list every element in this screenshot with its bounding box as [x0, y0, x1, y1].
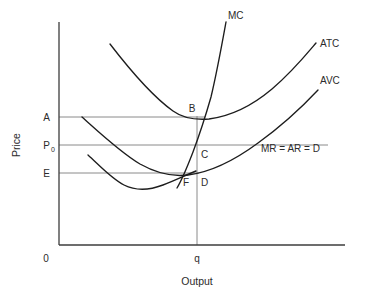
curve-label-avc: AVC: [320, 75, 340, 86]
curve-mc: [177, 22, 226, 188]
curve-label-mc: MC: [228, 10, 244, 21]
cost-curve-figure: MC ATC AVC MR = AR = D A P 0 E B C D F 0…: [0, 0, 366, 302]
revenue-line-label: MR = AR = D: [261, 143, 320, 154]
price-label-A: A: [43, 112, 50, 123]
curve-atc: [110, 43, 316, 119]
point-label-F: F: [183, 177, 189, 188]
point-label-D: D: [201, 177, 208, 188]
origin-label: 0: [43, 253, 49, 264]
curve-label-atc: ATC: [320, 38, 339, 49]
y-axis-title: Price: [10, 133, 22, 157]
x-axis-title: Output: [181, 275, 213, 287]
x-tick-label-q: q: [194, 253, 200, 264]
diagram-canvas: MC ATC AVC MR = AR = D A P 0 E B C D F 0…: [0, 0, 366, 302]
point-label-B: B: [189, 103, 196, 114]
point-label-C: C: [201, 149, 208, 160]
price-label-E: E: [43, 168, 50, 179]
price-label-P0: P: [43, 140, 50, 151]
price-label-P0-subscript: 0: [51, 146, 55, 153]
